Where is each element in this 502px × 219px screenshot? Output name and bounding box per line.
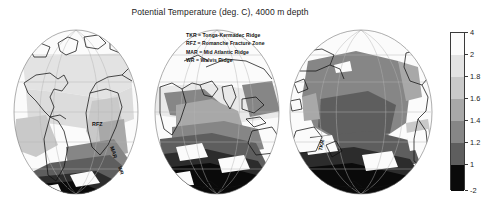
globe-panel-pacific: TKR (286, 27, 436, 197)
colorbar-tickmark-1.8 (465, 76, 468, 77)
legend-entry-wr: WR = Walvis Ridge (186, 56, 294, 64)
figure-title: Potential Temperature (deg. C), 4000 m d… (0, 7, 440, 17)
colorbar-tick-1.2: 1.2 (470, 138, 480, 147)
colorbar-tickmark-1.6 (465, 98, 468, 99)
figure-potential-temperature: Potential Temperature (deg. C), 4000 m d… (0, 0, 502, 219)
colorbar-tickmark-1 (465, 164, 468, 165)
colorbar-tick--2: -2 (470, 186, 477, 195)
globe-panel-atlantic: RFZ MAR WR (6, 27, 146, 197)
legend-entry-tkr: TKR = Tonga-Kermadec Ridge (186, 31, 294, 39)
colorbar-tick-labels: 421.81.61.41.21-2 (467, 26, 501, 198)
colorbar-band-1 (451, 55, 464, 77)
legend-entry-rfz: RFZ = Romanche Fracture Zone (186, 39, 294, 47)
colorbar-tick-1.6: 1.6 (470, 94, 480, 103)
colorbar-band-6 (451, 165, 464, 191)
colorbar-band-5 (451, 143, 464, 165)
colorbar (450, 32, 465, 190)
colorbar-tickmark-4 (465, 32, 468, 33)
colorbar-tick-1.8: 1.8 (470, 72, 480, 81)
colorbar-tickmark-1.2 (465, 142, 468, 143)
annotation-rfz: RFZ (92, 121, 103, 127)
colorbar-band-2 (451, 77, 464, 99)
colorbar-tick-2: 2 (470, 50, 474, 59)
annotation-wr: WR (117, 165, 125, 175)
colorbar-band-3 (451, 99, 464, 121)
abbreviation-legend: TKR = Tonga-Kermadec Ridge RFZ = Romanch… (186, 31, 294, 64)
colorbar-tickmark-1.4 (465, 120, 468, 121)
colorbar-tickmark--2 (465, 190, 468, 191)
colorbar-tickmark-2 (465, 54, 468, 55)
colorbar-tick-4: 4 (470, 28, 474, 37)
colorbar-tick-1: 1 (470, 160, 474, 169)
colorbar-tick-1.4: 1.4 (470, 116, 480, 125)
legend-entry-mar: MAR = Mid Atlantic Ridge (186, 48, 294, 56)
colorbar-band-0 (451, 33, 464, 55)
colorbar-band-4 (451, 121, 464, 143)
